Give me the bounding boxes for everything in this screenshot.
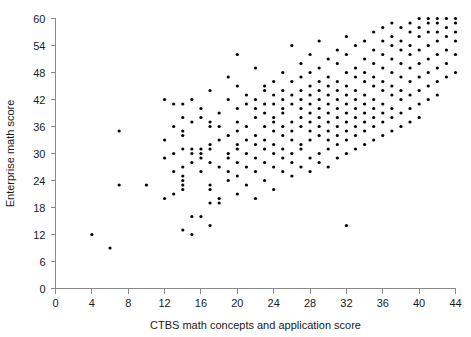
data-point bbox=[381, 111, 384, 114]
x-tick-label: 16 bbox=[195, 297, 207, 309]
data-point bbox=[227, 152, 230, 155]
data-point bbox=[299, 165, 302, 168]
data-point bbox=[427, 44, 430, 47]
data-point bbox=[208, 224, 211, 227]
data-point bbox=[118, 183, 121, 186]
data-point bbox=[208, 125, 211, 128]
data-point bbox=[372, 138, 375, 141]
data-point bbox=[290, 161, 293, 164]
data-point bbox=[227, 156, 230, 159]
data-point bbox=[318, 89, 321, 92]
data-point bbox=[336, 62, 339, 65]
data-point bbox=[454, 30, 457, 33]
data-point bbox=[354, 89, 357, 92]
data-point bbox=[199, 170, 202, 173]
data-point bbox=[299, 147, 302, 150]
data-point bbox=[245, 102, 248, 105]
data-point bbox=[418, 62, 421, 65]
data-point bbox=[345, 111, 348, 114]
data-point bbox=[181, 228, 184, 231]
data-point bbox=[272, 188, 275, 191]
data-point bbox=[336, 98, 339, 101]
data-point bbox=[445, 17, 448, 20]
data-point bbox=[345, 224, 348, 227]
data-point bbox=[427, 17, 430, 20]
data-point bbox=[427, 21, 430, 24]
data-point bbox=[445, 35, 448, 38]
x-tick-label: 40 bbox=[413, 297, 425, 309]
data-point bbox=[390, 57, 393, 60]
data-point bbox=[363, 93, 366, 96]
x-tick-label: 24 bbox=[268, 297, 280, 309]
data-point bbox=[272, 152, 275, 155]
data-point bbox=[263, 84, 266, 87]
data-point bbox=[245, 152, 248, 155]
y-tick-label: 24 bbox=[33, 175, 45, 187]
data-point bbox=[308, 71, 311, 74]
data-point bbox=[445, 62, 448, 65]
data-point bbox=[299, 62, 302, 65]
data-point bbox=[181, 179, 184, 182]
data-point bbox=[381, 26, 384, 29]
data-point bbox=[327, 102, 330, 105]
data-point bbox=[254, 143, 257, 146]
data-point bbox=[318, 107, 321, 110]
scatter-plot-figure: 0481216202428323640440612182430364248546… bbox=[0, 0, 471, 337]
data-point bbox=[299, 116, 302, 119]
data-point bbox=[236, 161, 239, 164]
data-point bbox=[236, 84, 239, 87]
data-point bbox=[399, 62, 402, 65]
x-tick-label: 44 bbox=[449, 297, 461, 309]
data-point bbox=[263, 89, 266, 92]
data-point bbox=[427, 98, 430, 101]
data-point bbox=[190, 233, 193, 236]
data-point bbox=[436, 53, 439, 56]
data-point bbox=[263, 102, 266, 105]
data-point bbox=[290, 80, 293, 83]
data-point bbox=[390, 93, 393, 96]
data-point bbox=[218, 111, 221, 114]
data-point bbox=[163, 197, 166, 200]
data-point bbox=[372, 116, 375, 119]
data-point bbox=[227, 98, 230, 101]
data-point bbox=[418, 75, 421, 78]
data-point bbox=[408, 44, 411, 47]
data-point bbox=[208, 183, 211, 186]
data-point bbox=[390, 35, 393, 38]
data-point bbox=[281, 71, 284, 74]
data-point bbox=[327, 75, 330, 78]
data-point bbox=[336, 143, 339, 146]
data-point bbox=[190, 147, 193, 150]
data-point bbox=[345, 102, 348, 105]
data-point bbox=[408, 21, 411, 24]
data-point bbox=[363, 57, 366, 60]
data-point bbox=[290, 129, 293, 132]
data-point bbox=[272, 102, 275, 105]
data-point bbox=[454, 21, 457, 24]
data-point bbox=[163, 98, 166, 101]
data-point bbox=[390, 71, 393, 74]
data-point bbox=[399, 111, 402, 114]
data-point bbox=[372, 75, 375, 78]
data-point bbox=[281, 134, 284, 137]
data-point bbox=[227, 134, 230, 137]
data-point bbox=[272, 93, 275, 96]
data-point bbox=[181, 134, 184, 137]
data-point bbox=[399, 89, 402, 92]
data-point bbox=[381, 80, 384, 83]
data-point bbox=[290, 102, 293, 105]
data-point bbox=[199, 107, 202, 110]
data-point bbox=[308, 129, 311, 132]
x-tick-label: 4 bbox=[89, 297, 95, 309]
data-point bbox=[408, 93, 411, 96]
data-point bbox=[436, 21, 439, 24]
data-point bbox=[290, 93, 293, 96]
data-point bbox=[408, 120, 411, 123]
data-point bbox=[418, 26, 421, 29]
data-point bbox=[263, 179, 266, 182]
data-point bbox=[418, 102, 421, 105]
data-point bbox=[390, 116, 393, 119]
data-point bbox=[254, 116, 257, 119]
data-point bbox=[245, 138, 248, 141]
data-point bbox=[354, 147, 357, 150]
